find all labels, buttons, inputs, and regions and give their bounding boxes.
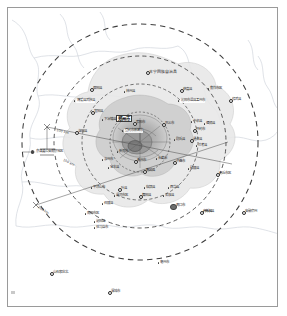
place-label: 山石家庄北 [53, 271, 68, 274]
place-label: 亳州市 [160, 261, 169, 264]
place-label: 巩义市 [165, 122, 174, 125]
place-label: 林州县 [126, 90, 135, 93]
place-marker [108, 167, 109, 168]
place-marker [178, 100, 179, 101]
place-label: 商丘县 [203, 210, 212, 213]
place-marker [208, 88, 209, 89]
place-marker [188, 168, 189, 169]
place-label: 修武县 [232, 98, 241, 101]
place-marker [204, 123, 205, 124]
place-label: 许昌市 [176, 160, 185, 163]
place-marker [114, 195, 115, 196]
place-label: 南阳市区 [87, 212, 99, 215]
place-marker [94, 221, 95, 222]
place-label: 兰考县 [198, 144, 207, 147]
place-marker [102, 203, 103, 204]
place-label: 平顶山市 [93, 186, 105, 189]
place-marker [163, 195, 164, 196]
place-label: 长葛市 [158, 157, 167, 160]
place-label: 鄢陵县 [190, 167, 199, 170]
place-label: 洛阳县 [78, 130, 87, 133]
place-label: 漯河市区 [116, 194, 128, 197]
place-marker [102, 159, 103, 160]
place-marker [122, 130, 123, 131]
place-label: 周口市 [176, 204, 185, 207]
place-label: 沁阳市温县孟州市 [180, 99, 205, 103]
place-label: 下冶镇县 [104, 118, 116, 121]
place-marker [117, 151, 118, 152]
place-label: 宜阳县 [94, 110, 103, 113]
place-label: 安徽宿州 [245, 210, 257, 213]
corner-reference-mark [11, 291, 15, 294]
place-marker [74, 100, 75, 101]
place-label: 漯城市 [111, 290, 120, 293]
place-marker [174, 139, 175, 140]
place-label: 偃师县 [206, 122, 215, 125]
place-marker [191, 121, 192, 122]
place-label: 京津冀公安南京地区 [35, 150, 63, 154]
place-marker [144, 187, 145, 188]
place-label: 商丘市区 [219, 172, 231, 175]
place-label: 宝丰县 [110, 166, 119, 169]
place-label: 禹州市 [137, 159, 146, 162]
place-marker [156, 158, 157, 159]
radial-distance-map: 郑州市 本宁回族自治县原阳县林州县获嘉县焦作市区修武县博爱县武陟县沁阳市温县孟州… [0, 0, 287, 316]
place-label: 原阳县 [93, 87, 102, 90]
place-label: 本宁回族自治县 [149, 70, 177, 74]
place-marker [85, 213, 86, 214]
place-label: 临颍县 [146, 186, 155, 189]
place-label: 登封市新密市 [124, 129, 143, 133]
place-marker [168, 187, 169, 188]
place-label: 太康县 [165, 194, 174, 197]
place-label: 荥阳市 [136, 121, 145, 124]
place-label: 驻马店市 [96, 226, 108, 229]
place-label: 泌阳县 [96, 220, 105, 223]
place-label: 召陵县 [104, 202, 113, 205]
place-marker [124, 91, 125, 92]
place-marker [91, 187, 92, 188]
center-city-label: 郑州市 [116, 115, 132, 122]
place-label: 新郑市 [119, 150, 128, 153]
place-marker [31, 150, 34, 153]
place-label: 叶县 [121, 187, 127, 190]
place-label: 襄城县 [146, 169, 155, 172]
place-label: 博爱县武陟县 [76, 99, 95, 103]
place-label: 西华县 [170, 186, 179, 189]
place-label: 开封市 [196, 128, 205, 131]
place-marker [102, 119, 103, 120]
place-marker [158, 262, 159, 263]
place-label: 焦作市区 [210, 87, 222, 90]
place-label: 获嘉县 [183, 88, 192, 91]
place-marker [94, 227, 95, 228]
measurement-ticks [33, 124, 54, 208]
place-label: 通许县 [193, 138, 202, 141]
place-marker [196, 145, 197, 146]
place-label: 尉氏县 [176, 138, 185, 141]
place-label: 中牟县 [193, 120, 202, 123]
place-label: 汝州市 [104, 158, 113, 161]
place-label: 舞阳县 [142, 194, 151, 197]
